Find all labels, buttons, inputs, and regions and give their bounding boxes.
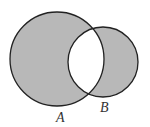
set-a-label: A [55, 110, 65, 125]
set-b-label: B [100, 100, 109, 115]
venn-diagram: A B [0, 0, 150, 127]
